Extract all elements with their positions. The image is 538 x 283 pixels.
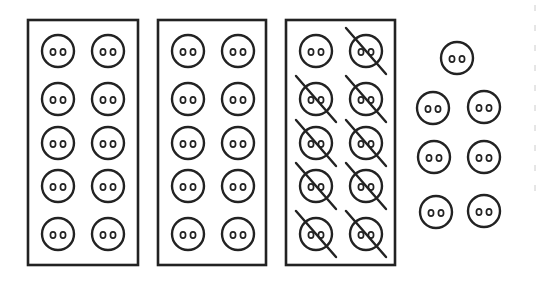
button-icon [92, 170, 124, 202]
button-icon [42, 170, 74, 202]
button-icon [468, 91, 500, 123]
button-icon [42, 83, 74, 115]
button-icon [42, 218, 74, 250]
button-icon [420, 196, 452, 228]
crossed-button-icon [296, 76, 336, 122]
button-icon [222, 35, 254, 67]
button-icon [92, 127, 124, 159]
button-icon [172, 127, 204, 159]
button-icon [92, 35, 124, 67]
box-2 [158, 20, 266, 265]
crossed-button-icon [346, 76, 386, 122]
button-icon [172, 35, 204, 67]
button-icon [300, 35, 332, 67]
crossed-button-icon [346, 163, 386, 209]
box-3 [286, 20, 395, 265]
button-icon [417, 92, 449, 124]
button-icon [441, 42, 473, 74]
button-icon [92, 83, 124, 115]
button-icon [172, 83, 204, 115]
crossed-button-icon [346, 120, 386, 166]
button-icon [222, 83, 254, 115]
button-icon [468, 141, 500, 173]
crossed-button-icon [296, 163, 336, 209]
crossed-button-icon [296, 211, 336, 257]
button-icon [418, 141, 450, 173]
crossed-button-icon [346, 28, 386, 74]
button-icon [92, 218, 124, 250]
button-icon [42, 35, 74, 67]
button-icon [172, 218, 204, 250]
box-1 [28, 20, 138, 265]
button-icon [222, 170, 254, 202]
crossed-button-icon [346, 211, 386, 257]
button-icon [222, 218, 254, 250]
button-icon [468, 195, 500, 227]
button-icon [222, 127, 254, 159]
buttons-diagram [0, 0, 538, 283]
loose-buttons [417, 42, 500, 228]
button-icon [172, 170, 204, 202]
button-icon [42, 127, 74, 159]
crossed-button-icon [296, 120, 336, 166]
